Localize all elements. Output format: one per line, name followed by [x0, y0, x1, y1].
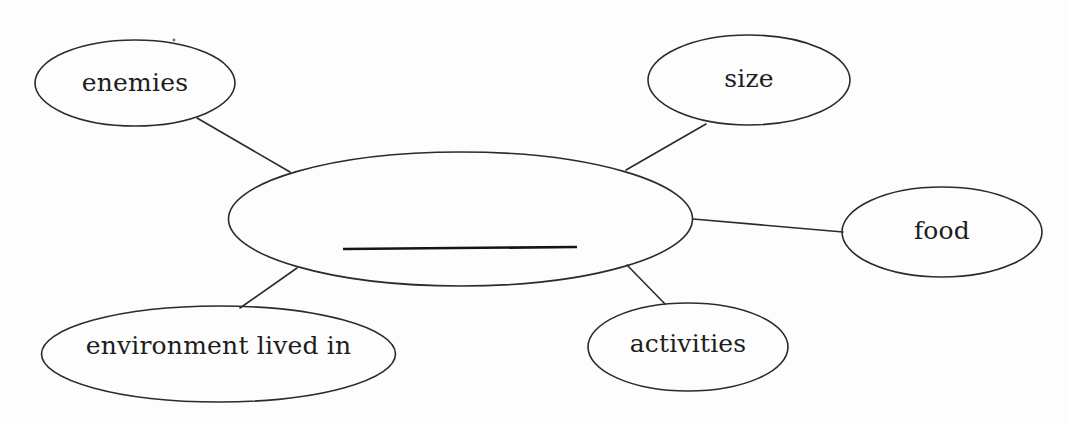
node-label-size: size: [648, 64, 850, 93]
node-label-environment: environment lived in: [42, 331, 395, 360]
connector-environment: [240, 268, 297, 308]
node-label-enemies: enemies: [35, 68, 235, 97]
node-label-food: food: [842, 216, 1042, 245]
center-oval[interactable]: [229, 152, 693, 286]
connector-enemies: [197, 118, 290, 172]
connector-activities: [627, 265, 665, 304]
scan-speck: [173, 39, 176, 42]
connector-size: [626, 124, 706, 170]
connector-food: [693, 219, 843, 232]
diagram-canvas: enemies size food environment lived in a…: [0, 0, 1068, 422]
node-label-activities: activities: [588, 329, 788, 358]
center-blank-line[interactable]: [343, 247, 577, 249]
